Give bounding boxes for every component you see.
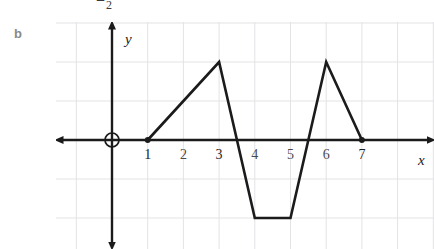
- graph-plate: y x 1234567: [56, 22, 434, 249]
- x-axis-label: x: [417, 152, 425, 168]
- x-tick-label-1: 1: [144, 147, 151, 162]
- fragment-main: =: [96, 0, 105, 8]
- x-tick-label-6: 6: [323, 147, 330, 162]
- cut-off-formula-fragment: =2: [96, 0, 112, 13]
- x-tick-label-4: 4: [251, 147, 258, 162]
- x-tick-label-3: 3: [216, 147, 223, 162]
- part-label-b: b: [14, 26, 22, 41]
- x-tick-label-2: 2: [180, 147, 187, 162]
- coordinate-plane-svg: y x 1234567: [56, 22, 434, 249]
- x-tick-label-7: 7: [358, 147, 365, 162]
- fragment-subscript: 2: [106, 0, 112, 12]
- figure-page: =2 b y x 1234567: [0, 0, 434, 249]
- endpoint-dot: [145, 137, 151, 143]
- y-axis-label: y: [123, 31, 132, 47]
- endpoint-dot: [359, 137, 365, 143]
- x-tick-labels: 1234567: [144, 147, 365, 162]
- x-tick-label-5: 5: [287, 147, 294, 162]
